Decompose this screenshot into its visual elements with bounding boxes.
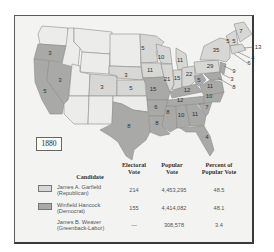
state-fl bbox=[180, 126, 214, 156]
swatch-republican bbox=[38, 185, 52, 192]
header-percent-1: Percent of bbox=[194, 161, 244, 168]
label-il: 21 bbox=[164, 76, 171, 82]
state-nm bbox=[88, 96, 113, 124]
label-nc: 10 bbox=[206, 93, 213, 99]
header-electoral-1: Electoral bbox=[116, 161, 152, 168]
label-ia: 11 bbox=[147, 67, 154, 73]
label-al: 10 bbox=[178, 112, 185, 118]
label-de: 3 bbox=[230, 76, 234, 82]
label-oh: 22 bbox=[186, 71, 193, 77]
label-in: 15 bbox=[174, 75, 181, 81]
label-tn: 12 bbox=[177, 97, 184, 103]
popular-vote: 4,414,082 bbox=[154, 205, 194, 211]
state-wy bbox=[80, 52, 110, 74]
candidate-party: (Republican) bbox=[57, 190, 89, 196]
electoral-vote: 155 bbox=[116, 205, 152, 211]
header-candidate: Candidate bbox=[60, 173, 120, 180]
swatch-democrat bbox=[38, 203, 52, 210]
label-ma: 13 bbox=[255, 44, 262, 50]
label-wi: 10 bbox=[158, 54, 165, 60]
state-ma-ct-ri bbox=[230, 44, 246, 54]
state-dakota bbox=[110, 34, 141, 67]
state-az bbox=[64, 96, 89, 124]
header-electoral-2: Vote bbox=[116, 168, 152, 175]
label-mo: 15 bbox=[150, 86, 157, 92]
candidate-party: (Greenback-Labor) bbox=[57, 225, 104, 231]
year-label: 1880 bbox=[36, 137, 62, 151]
electoral-vote: 214 bbox=[116, 187, 152, 193]
electoral-vote: — bbox=[116, 222, 152, 228]
label-ny: 35 bbox=[213, 47, 220, 53]
label-nj: 9 bbox=[232, 68, 236, 74]
label-mi: 11 bbox=[177, 57, 184, 63]
popular-vote: 4,453,295 bbox=[154, 187, 194, 193]
label-va: 11 bbox=[207, 83, 214, 89]
popular-vote: 308,578 bbox=[154, 222, 194, 228]
percent-vote: 48.5 bbox=[194, 187, 244, 193]
header-percent-2: Popular Vote bbox=[194, 168, 244, 175]
label-ga: 11 bbox=[192, 111, 199, 117]
candidate-party: (Democrat) bbox=[57, 208, 85, 214]
header-popular-1: Popular bbox=[154, 161, 190, 168]
label-pa: 29 bbox=[207, 63, 214, 69]
state-nj bbox=[220, 62, 226, 74]
state-wa bbox=[38, 26, 68, 46]
label-md: 8 bbox=[232, 84, 236, 90]
header-popular-2: Vote bbox=[154, 168, 190, 175]
label-ky: 12 bbox=[184, 87, 191, 93]
us-electoral-map: 3 3 5 3 3 5 5 11 15 6 8 8 10 11 21 15 22… bbox=[0, 0, 274, 252]
percent-vote: 3.4 bbox=[194, 222, 244, 228]
percent-vote: 48.1 bbox=[194, 205, 244, 211]
label-ri: 4 bbox=[251, 55, 255, 61]
